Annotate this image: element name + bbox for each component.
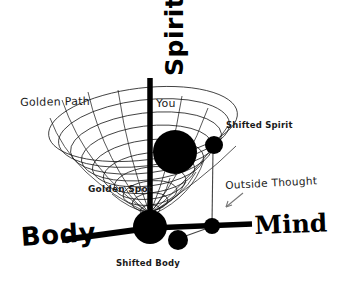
vortex-meridians [50,90,236,214]
diagram-canvas: Spirit Body Mind Golden Path You Shifted… [0,0,344,286]
annotation-you: You [156,98,176,109]
annotation-shifted-body: Shifted Body [116,259,180,268]
node-mind-axis-node[interactable] [204,218,220,234]
node-shifted-body-sphere[interactable] [168,230,188,250]
annotation-golden-spot: Golden Spot [88,185,152,194]
node-golden-spot-sphere[interactable] [133,210,167,244]
axis-label-body: Body [20,219,97,250]
axis-label-spirit: Spirit [162,0,187,76]
spirit-shift-connector [212,150,213,224]
node-shifted-spirit-sphere[interactable] [205,136,223,154]
annotation-golden-path: Golden Path [20,96,90,108]
axis-label-mind: Mind [254,210,328,238]
outside-thought-pointer [226,193,243,207]
annotation-shifted-spirit: Shifted Spirit [226,121,293,130]
node-you-sphere[interactable] [153,130,197,174]
